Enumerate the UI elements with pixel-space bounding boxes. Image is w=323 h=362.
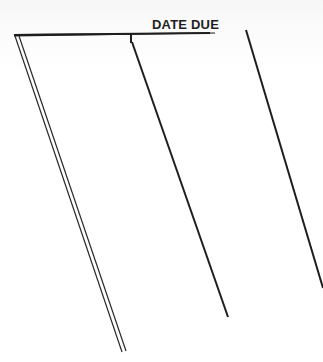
ruled-lines xyxy=(0,0,323,362)
middle-divider xyxy=(132,42,228,317)
header-rule-end xyxy=(14,33,210,35)
left-border-outer xyxy=(15,36,122,352)
date-due-card: DATE DUE xyxy=(0,0,323,362)
right-divider xyxy=(246,30,323,288)
left-border-inner xyxy=(19,36,126,351)
card-title: DATE DUE xyxy=(152,17,219,32)
